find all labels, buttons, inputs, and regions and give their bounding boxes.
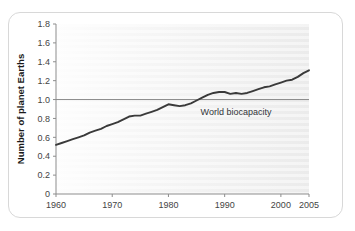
y-tick-label: 1.4 xyxy=(37,57,50,67)
world-biocapacity-label: World biocapacity xyxy=(201,107,272,117)
line-chart: 00.20.40.60.81.01.21.41.61.8 19601970198… xyxy=(0,0,355,231)
x-tick-label: 1970 xyxy=(102,200,122,210)
figure-container: 00.20.40.60.81.01.21.41.61.8 19601970198… xyxy=(0,0,355,231)
y-tick-label: 0.2 xyxy=(37,170,50,180)
y-tick-label: 1.0 xyxy=(37,95,50,105)
y-tick-label: 0 xyxy=(45,189,50,199)
y-tick-label: 1.8 xyxy=(37,19,50,29)
x-tick-label: 2005 xyxy=(299,200,319,210)
x-tick-label: 1960 xyxy=(46,200,66,210)
x-axis-tick-labels: 196019701980199020002005 xyxy=(46,200,319,210)
x-tick-label: 1980 xyxy=(158,200,178,210)
x-tick-label: 2000 xyxy=(271,200,291,210)
y-tick-label: 0.8 xyxy=(37,114,50,124)
y-axis-tick-labels: 00.20.40.60.81.01.21.41.61.8 xyxy=(37,19,50,199)
y-tick-label: 1.2 xyxy=(37,76,50,86)
y-axis-title: Number of planet Earths xyxy=(15,54,26,164)
y-tick-label: 0.6 xyxy=(37,133,50,143)
y-tick-label: 1.6 xyxy=(37,38,50,48)
y-tick-label: 0.4 xyxy=(37,151,50,161)
x-tick-label: 1990 xyxy=(215,200,235,210)
